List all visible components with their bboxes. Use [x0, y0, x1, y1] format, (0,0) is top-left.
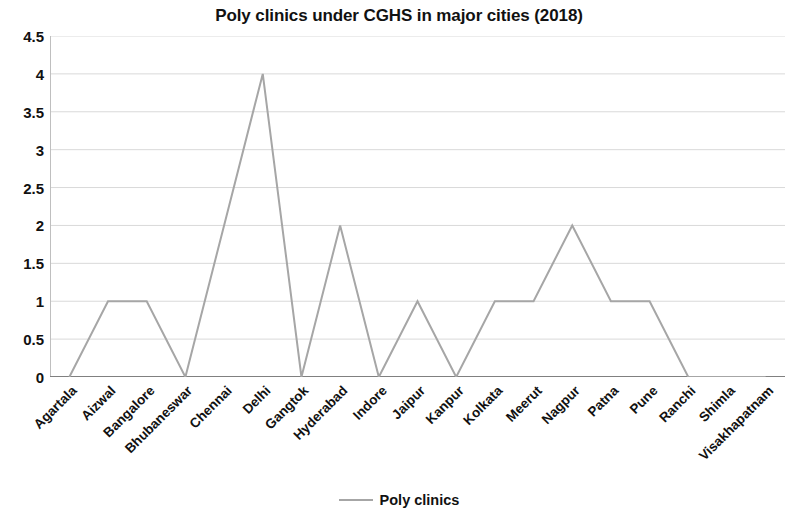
- x-tick-label: Chennai: [187, 383, 235, 431]
- y-tick-label: 3: [0, 141, 44, 158]
- x-tick-label: Ranchi: [656, 383, 698, 425]
- x-tick-label: Nagpur: [539, 383, 583, 427]
- y-tick-label: 1: [0, 293, 44, 310]
- y-tick-label: 4: [0, 65, 44, 82]
- x-tick-label: Kolkata: [460, 383, 505, 428]
- x-tick-label: Delhi: [239, 383, 273, 417]
- x-tick-label: Kanpur: [423, 383, 467, 427]
- x-tick-label: Pune: [626, 383, 660, 417]
- y-axis: 00.511.522.533.544.5: [0, 36, 44, 377]
- plot-svg: [50, 36, 785, 377]
- legend-line-swatch: [339, 499, 373, 501]
- plot-area: [50, 36, 785, 377]
- x-tick-label: Indore: [350, 383, 390, 423]
- x-tick-label: Jaipur: [388, 383, 427, 422]
- x-tick-label: Bhubaneswar: [122, 383, 195, 456]
- chart-container: Poly clinics under CGHS in major cities …: [0, 0, 798, 523]
- y-tick-label: 1.5: [0, 255, 44, 272]
- x-tick-label: Patna: [585, 383, 622, 420]
- x-tick-label: Meerut: [503, 383, 545, 425]
- y-tick-label: 2.5: [0, 179, 44, 196]
- x-tick-label: Agartala: [31, 383, 80, 432]
- y-tick-label: 2: [0, 217, 44, 234]
- y-tick-label: 0: [0, 369, 44, 386]
- chart-legend: Poly clinics: [0, 492, 798, 508]
- legend-label: Poly clinics: [380, 492, 460, 508]
- y-tick-label: 4.5: [0, 28, 44, 45]
- x-axis: AgartalaAizwalBangaloreBhubaneswarChenna…: [50, 377, 785, 497]
- chart-title: Poly clinics under CGHS in major cities …: [0, 6, 798, 26]
- y-tick-label: 3.5: [0, 103, 44, 120]
- y-tick-label: 0.5: [0, 331, 44, 348]
